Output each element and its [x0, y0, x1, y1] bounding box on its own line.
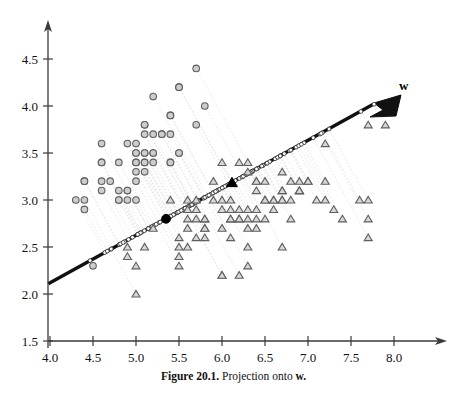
data-point-triangle: [141, 243, 149, 250]
data-point-circle: [116, 197, 123, 204]
data-point-circle: [150, 150, 157, 157]
projection-line: [145, 162, 174, 214]
projected-point-marker: [121, 241, 125, 245]
data-point-circle: [193, 65, 200, 72]
y-tick-label: 4.5: [22, 52, 38, 67]
projected-point-marker: [109, 247, 113, 251]
projection-line: [304, 143, 325, 181]
data-point-triangle: [330, 206, 338, 213]
data-point-triangle: [270, 206, 278, 213]
x-tick-label: 7.5: [343, 350, 359, 365]
data-point-circle: [81, 197, 88, 204]
projection-line: [235, 181, 256, 219]
data-point-circle: [133, 159, 140, 166]
data-point-triangle: [184, 243, 192, 250]
data-point-triangle: [261, 196, 269, 203]
data-point-triangle: [192, 234, 200, 241]
caption-w-symbol: w.: [296, 370, 307, 382]
data-point-triangle: [132, 290, 140, 297]
data-point-circle: [150, 159, 157, 166]
data-point-triangle: [287, 178, 295, 185]
projection-line: [162, 134, 199, 201]
caption-text: Projection onto: [222, 370, 293, 382]
data-point-circle: [81, 178, 88, 185]
projection-line: [153, 134, 192, 204]
projection-line: [192, 205, 205, 229]
projected-point-marker: [207, 193, 211, 197]
y-tick-label: 4.0: [22, 99, 38, 114]
data-point-triangle: [287, 215, 295, 222]
projection-line: [196, 125, 229, 184]
projection-line: [196, 68, 253, 171]
data-point-triangle: [227, 234, 235, 241]
projection-line: [226, 186, 239, 210]
data-point-triangle: [235, 215, 243, 222]
x-tick-label: 5.5: [171, 350, 187, 365]
data-point-triangle: [364, 215, 372, 222]
y-tick-label: 2.0: [22, 287, 38, 302]
projected-point-marker: [265, 161, 269, 165]
projection-line: [323, 133, 360, 200]
data-point-circle: [98, 140, 105, 147]
data-point-circle: [133, 178, 140, 185]
class-1-projected-mean: [162, 214, 171, 223]
data-point-circle: [133, 150, 140, 157]
projection-line: [145, 134, 186, 208]
projection-line: [145, 172, 170, 217]
data-point-circle: [141, 150, 148, 157]
caption-number: Figure 20.1.: [161, 370, 219, 382]
data-point-triangle: [252, 215, 260, 222]
data-point-circle: [98, 187, 105, 194]
data-point-circle: [124, 197, 131, 204]
y-tick-label: 1.5: [22, 334, 38, 349]
data-point-triangle: [175, 262, 183, 269]
projection-line: [284, 154, 299, 181]
projection-line: [250, 173, 265, 200]
data-point-triangle: [201, 225, 209, 232]
x-axis-tick-labels: 4.04.55.05.56.06.57.07.58.0: [42, 350, 402, 365]
data-point-triangle: [227, 215, 235, 222]
scatter-plot-svg: 4.04.55.05.56.06.57.07.58.0 1.52.02.53.0…: [0, 0, 467, 399]
projected-point-marker: [142, 229, 146, 233]
data-point-circle: [176, 84, 183, 91]
projection-line: [278, 157, 291, 181]
projected-point-marker: [214, 190, 218, 194]
data-point-circle: [193, 122, 200, 129]
projected-point-marker: [127, 238, 131, 242]
data-point-circle: [167, 159, 174, 166]
data-point-circle: [133, 169, 140, 176]
data-point-triangle: [209, 196, 217, 203]
y-tick-label: 3.0: [22, 193, 38, 208]
data-point-triangle: [235, 272, 243, 279]
data-point-triangle: [313, 196, 321, 203]
data-point-circle: [73, 197, 80, 204]
x-tick-label: 6.0: [214, 350, 230, 365]
data-point-triangle: [261, 215, 269, 222]
projection-line: [145, 162, 174, 214]
x-tick-label: 4.0: [42, 350, 58, 365]
x-tick-label: 4.5: [85, 350, 101, 365]
projected-point-marker: [255, 167, 259, 171]
data-point-triangle: [364, 196, 372, 203]
projected-point-marker: [136, 233, 140, 237]
projected-point-marker: [278, 154, 282, 158]
data-point-circle: [141, 169, 148, 176]
data-point-triangle: [244, 262, 252, 269]
data-point-triangle: [364, 121, 372, 128]
projected-point-marker: [158, 220, 162, 224]
projection-line: [329, 129, 368, 200]
data-point-circle: [98, 159, 105, 166]
data-point-triangle: [227, 206, 235, 213]
projection-line: [102, 144, 149, 229]
data-point-circle: [124, 140, 131, 147]
x-tick-label: 7.0: [300, 350, 316, 365]
data-point-triangle: [338, 215, 346, 222]
data-point-circle: [116, 187, 123, 194]
data-point-triangle: [175, 234, 183, 241]
data-point-triangle: [218, 206, 226, 213]
projected-point-marker: [105, 249, 109, 253]
data-point-triangle: [218, 225, 226, 232]
projected-point-marker: [299, 142, 303, 146]
data-point-circle: [98, 178, 105, 185]
projected-point-marker: [372, 102, 376, 106]
